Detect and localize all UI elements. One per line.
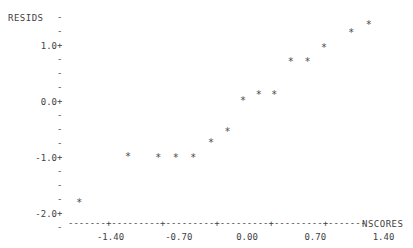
- y-axis-major-tick: +: [57, 97, 62, 106]
- y-axis-minor-tick: -: [57, 69, 62, 78]
- data-point: *: [320, 43, 328, 53]
- x-axis-tick-label: 1.40: [362, 232, 406, 242]
- data-point: *: [347, 28, 355, 38]
- data-point: *: [75, 198, 83, 208]
- x-axis-tick-label: -0.70: [157, 232, 201, 242]
- y-axis-major-tick: +: [57, 209, 62, 218]
- data-point: *: [303, 57, 311, 67]
- data-point: *: [239, 96, 247, 106]
- y-axis-title: RESIDS: [8, 13, 44, 23]
- y-axis-tick-label: 1.0: [15, 41, 57, 51]
- data-point: *: [172, 153, 180, 163]
- y-axis-minor-tick: -: [57, 83, 62, 92]
- y-axis-minor-tick: -: [57, 55, 62, 64]
- data-point: *: [270, 90, 278, 100]
- x-axis-tick-label: -1.40: [89, 232, 133, 242]
- scatter-plot: RESIDS --+1.0---+0.0---+-1.0---+-2.0- --…: [0, 0, 413, 248]
- x-axis-tick-label: 0.00: [225, 232, 269, 242]
- y-axis-tick-label: 0.0: [15, 97, 57, 107]
- y-axis-minor-tick: -: [57, 13, 62, 22]
- y-axis-tick-label: -1.0: [15, 153, 57, 163]
- y-axis-minor-tick: -: [57, 111, 62, 120]
- data-point: *: [189, 153, 197, 163]
- x-axis-tick-label: 0.70: [293, 232, 337, 242]
- y-axis-minor-tick: -: [57, 195, 62, 204]
- y-axis-tick-label: -2.0: [15, 209, 57, 219]
- y-axis-major-tick: +: [57, 153, 62, 162]
- x-axis-line: -------+---------+---------+---------+--…: [68, 219, 366, 228]
- data-point: *: [224, 127, 232, 137]
- data-point: *: [207, 138, 215, 148]
- x-axis-title: NSCORES: [362, 219, 403, 229]
- y-axis-minor-tick: -: [57, 139, 62, 148]
- data-point: *: [124, 152, 132, 162]
- y-axis-minor-tick: -: [57, 125, 62, 134]
- data-point: *: [287, 57, 295, 67]
- y-axis-minor-tick: -: [57, 181, 62, 190]
- y-axis-major-tick: +: [57, 41, 62, 50]
- data-point: *: [154, 153, 162, 163]
- data-point: *: [255, 90, 263, 100]
- data-point: *: [365, 20, 373, 30]
- y-axis-minor-tick: -: [57, 223, 62, 232]
- y-axis-minor-tick: -: [57, 167, 62, 176]
- y-axis-minor-tick: -: [57, 27, 62, 36]
